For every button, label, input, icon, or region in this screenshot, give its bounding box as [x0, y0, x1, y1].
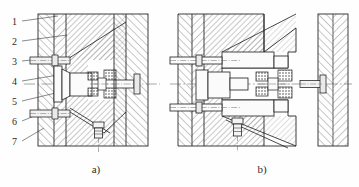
- b-slide-bottom-nose: [274, 100, 288, 112]
- b-bottom-pin-collar: [196, 102, 202, 113]
- callout-number-7: 7: [12, 136, 17, 147]
- ejector-shank: [95, 128, 103, 138]
- b-top-pin-collar: [196, 55, 202, 66]
- plate-cavity-lower-hatch: [66, 100, 114, 146]
- b-plate-backing-hatch: [178, 14, 192, 146]
- caption-a: a): [92, 163, 101, 176]
- b-slide-top-body: [222, 52, 274, 68]
- b-core-nose: [230, 78, 248, 90]
- b-core-flange: [196, 70, 208, 100]
- callout-number-3: 3: [12, 56, 17, 67]
- b-ejector-head: [232, 118, 243, 124]
- b-core-barrel: [208, 72, 230, 98]
- detached-plate-hatch-right: [333, 14, 348, 146]
- plate-backing-hatch: [38, 14, 54, 146]
- b-slide-top-nose: [274, 56, 288, 68]
- core-taper: [62, 69, 70, 100]
- view-a-top-angle-pin: [30, 55, 70, 66]
- drawing-canvas: 1 2 3 4 5 6 7: [0, 0, 359, 187]
- b-ejector-shank: [234, 124, 242, 136]
- callout-number-1: 1: [12, 16, 17, 27]
- b-slide-bottom-body: [222, 100, 274, 116]
- core-flange: [54, 66, 62, 102]
- callout-number-4: 4: [12, 76, 17, 87]
- view-a-bottom-angle-pin: [30, 108, 70, 119]
- caption-b: b): [257, 163, 267, 176]
- callout-number-2: 2: [12, 36, 17, 47]
- callout-number-6: 6: [12, 116, 17, 127]
- ejector-head: [93, 122, 104, 128]
- mould-sectional-svg: 1 2 3 4 5 6 7: [0, 0, 359, 187]
- callout-number-5: 5: [12, 96, 17, 107]
